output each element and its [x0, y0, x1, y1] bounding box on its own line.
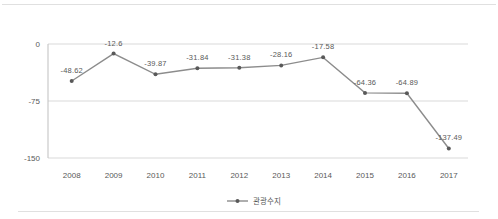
- data-point-marker: [321, 55, 325, 59]
- data-point-label: -64.89: [396, 78, 418, 87]
- data-point-marker: [447, 146, 451, 150]
- x-axis-tick-label: 2015: [356, 171, 374, 180]
- data-point-marker: [405, 91, 409, 95]
- y-axis-tick-label: -75: [28, 97, 40, 106]
- data-point-label: -12.6: [105, 39, 123, 48]
- x-axis-tick-label: 2017: [440, 171, 458, 180]
- line-chart-canvas: 0-75-15020082009201020112012201320142015…: [0, 0, 498, 219]
- data-point-marker: [112, 52, 116, 56]
- y-axis-tick-label: -150: [24, 154, 41, 163]
- x-axis-tick-label: 2012: [230, 171, 248, 180]
- legend-series-label: 관광수지: [253, 196, 281, 206]
- data-point-marker: [279, 63, 283, 67]
- data-point-marker: [363, 91, 367, 95]
- tourism-balance-line-chart-figure: 0-75-15020082009201020112012201320142015…: [0, 0, 498, 219]
- data-point-marker: [237, 66, 241, 70]
- data-point-label: -48.62: [60, 66, 82, 75]
- legend-marker-icon: [236, 199, 240, 203]
- data-point-label: -31.84: [186, 53, 208, 62]
- data-point-label: -64.36: [354, 78, 376, 87]
- x-axis-tick-label: 2013: [272, 171, 290, 180]
- x-axis-tick-label: 2011: [189, 171, 207, 180]
- x-axis-tick-label: 2010: [147, 171, 165, 180]
- data-point-label: -31.38: [228, 53, 250, 62]
- data-point-label: -39.87: [144, 59, 166, 68]
- data-point-label: -137.49: [435, 133, 462, 142]
- x-axis-tick-label: 2016: [398, 171, 416, 180]
- x-axis-tick-label: 2014: [314, 171, 332, 180]
- data-point-label: -17.58: [312, 42, 334, 51]
- x-axis-tick-label: 2009: [105, 171, 123, 180]
- data-point-label: -28.16: [270, 50, 292, 59]
- data-point-marker: [70, 79, 74, 83]
- y-axis-tick-label: 0: [36, 40, 41, 49]
- data-point-marker: [154, 72, 158, 76]
- x-axis-tick-label: 2008: [63, 171, 81, 180]
- data-point-marker: [195, 66, 199, 70]
